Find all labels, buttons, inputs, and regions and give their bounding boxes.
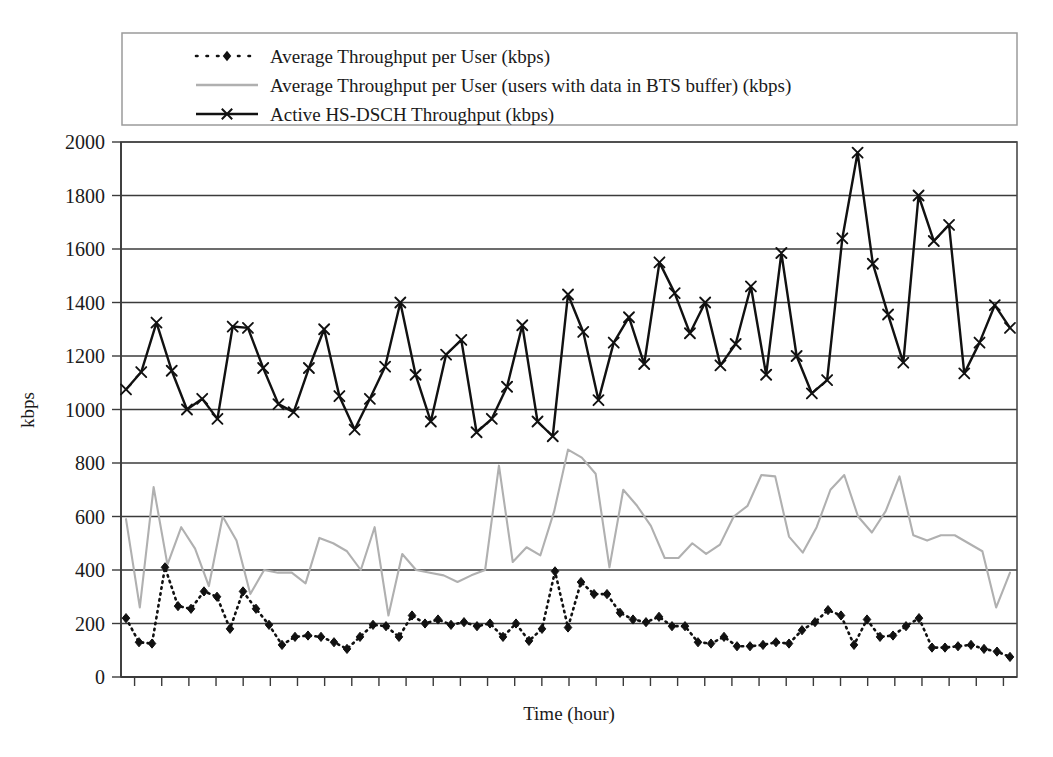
y-tick-label: 400 bbox=[75, 559, 105, 581]
throughput-line-chart: Average Throughput per User (kbps)Averag… bbox=[0, 0, 1053, 757]
y-tick-label: 800 bbox=[75, 452, 105, 474]
y-tick-label: 200 bbox=[75, 613, 105, 635]
legend-item: Average Throughput per User (users with … bbox=[196, 75, 791, 97]
y-tick-label: 2000 bbox=[65, 131, 105, 153]
legend-label: Average Throughput per User (users with … bbox=[270, 75, 791, 97]
y-tick-label: 0 bbox=[95, 666, 105, 688]
y-tick-label: 1200 bbox=[65, 345, 105, 367]
x-axis-title: Time (hour) bbox=[523, 703, 615, 725]
legend-label: Average Throughput per User (kbps) bbox=[270, 46, 550, 68]
y-tick-label: 1800 bbox=[65, 185, 105, 207]
y-tick-label: 1600 bbox=[65, 238, 105, 260]
legend-label: Active HS-DSCH Throughput (kbps) bbox=[270, 104, 554, 126]
y-tick-label: 1400 bbox=[65, 292, 105, 314]
chart-container: Average Throughput per User (kbps)Averag… bbox=[0, 0, 1053, 757]
y-tick-label: 1000 bbox=[65, 399, 105, 421]
y-tick-label: 600 bbox=[75, 506, 105, 528]
y-axis-title: kbps bbox=[17, 392, 38, 428]
